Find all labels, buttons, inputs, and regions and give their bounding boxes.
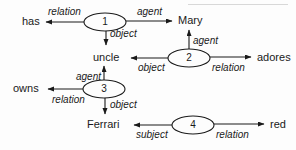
- edge-label-relation-owns: relation: [52, 95, 85, 105]
- diagram-canvas: has Mary uncle adores owns Ferrari red 1…: [0, 0, 296, 150]
- relation-node-2-label: 2: [179, 53, 199, 63]
- concept-owns: owns: [13, 83, 39, 94]
- edge-label-object-ferrari: object: [110, 100, 137, 110]
- edge-label-relation-adores: relation: [212, 63, 245, 73]
- edge-label-relation-red: relation: [216, 130, 249, 140]
- concept-uncle: uncle: [93, 52, 119, 63]
- concept-has: has: [22, 16, 40, 27]
- edge-label-agent-mary-2: agent: [193, 36, 218, 46]
- edge-label-agent-mary-1: agent: [137, 7, 162, 17]
- relation-node-1-label: 1: [95, 17, 115, 27]
- edge-label-relation-has: relation: [48, 7, 81, 17]
- relation-node-4-label: 4: [183, 120, 203, 130]
- edge-label-object-uncle-2: object: [138, 63, 165, 73]
- concept-red: red: [270, 119, 286, 130]
- concept-ferrari: Ferrari: [87, 119, 119, 130]
- relation-node-3-label: 3: [94, 84, 114, 94]
- edge-label-agent-uncle-3: agent: [76, 72, 101, 82]
- concept-mary: Mary: [178, 15, 202, 26]
- concept-adores: adores: [257, 52, 291, 63]
- edge-label-subject-ferrari: subject: [136, 130, 168, 140]
- edge-label-object-uncle-1: object: [110, 29, 137, 39]
- diagram-graphics: [0, 0, 296, 150]
